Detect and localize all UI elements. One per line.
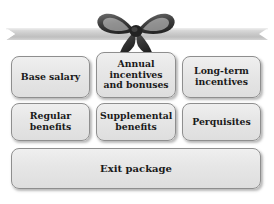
box-label: Base salary — [15, 72, 86, 83]
ribbon-bow-icon — [94, 5, 178, 57]
box-label: Supplemental benefits — [100, 111, 172, 132]
box-label: Long-term incentives — [186, 66, 257, 87]
box-label: Regular benefits — [15, 111, 86, 132]
box-long-term-incentives[interactable]: Long-term incentives — [182, 56, 261, 98]
box-label: Exit package — [15, 163, 257, 174]
box-label: Perquisites — [186, 117, 257, 128]
compensation-diagram: Base salary Annual incentives and bonuse… — [0, 0, 274, 204]
box-exit-package[interactable]: Exit package — [11, 148, 261, 189]
box-annual-incentives[interactable]: Annual incentives and bonuses — [96, 52, 176, 98]
box-supplemental-benefits[interactable]: Supplemental benefits — [96, 103, 176, 141]
box-regular-benefits[interactable]: Regular benefits — [11, 103, 90, 141]
box-label: Annual incentives and bonuses — [100, 59, 172, 91]
box-perquisites[interactable]: Perquisites — [182, 103, 261, 141]
box-base-salary[interactable]: Base salary — [11, 56, 90, 98]
